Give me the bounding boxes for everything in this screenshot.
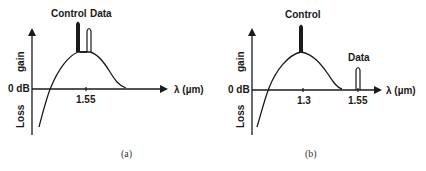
control-signal-peak [299, 25, 303, 53]
caption-a: (a) [121, 148, 132, 160]
panel-a: Control Data 0 dB gain Loss 1.55 λ (µm) … [8, 8, 204, 160]
tick-label-1-3: 1.3 [297, 95, 311, 106]
control-label: Control [51, 8, 87, 19]
data-label: Data [348, 52, 370, 63]
control-signal-peak [76, 22, 80, 53]
data-label: Data [90, 8, 112, 19]
tick-label-1-55: 1.55 [348, 95, 368, 106]
loss-label: Loss [235, 104, 246, 128]
tick-label-1-55: 1.55 [76, 94, 96, 105]
panel-b: Control Data 0 dB gain Loss 1.3 1.55 λ (… [228, 9, 416, 160]
zero-db-label: 0 dB [8, 83, 30, 94]
data-signal-peak [356, 68, 360, 91]
control-label: Control [285, 9, 321, 20]
x-axis-label: λ (µm) [386, 85, 416, 96]
loss-label: Loss [15, 104, 26, 128]
x-axis-label: λ (µm) [174, 84, 204, 95]
caption-b: (b) [305, 148, 317, 160]
diagram-canvas: Control Data 0 dB gain Loss 1.55 λ (µm) … [0, 0, 426, 171]
gain-label: gain [235, 51, 246, 72]
zero-db-label: 0 dB [228, 84, 250, 95]
gain-label: gain [15, 51, 26, 72]
data-signal-peak [87, 29, 91, 53]
